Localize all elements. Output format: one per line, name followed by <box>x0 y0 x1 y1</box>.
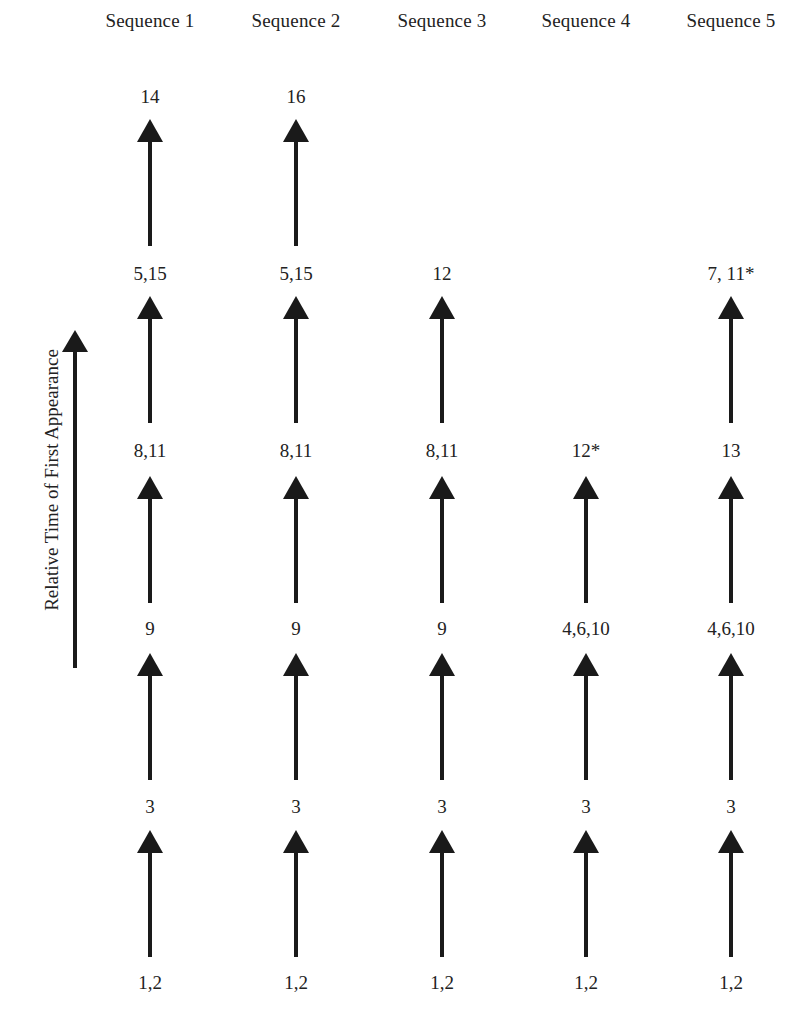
stage-label: 3 <box>726 796 736 818</box>
stage-label: 3 <box>291 796 301 818</box>
up-arrow-icon <box>427 830 457 958</box>
stage-label: 7, 11* <box>708 263 755 285</box>
up-arrow-icon <box>281 830 311 958</box>
stage-label: 4,6,10 <box>707 618 755 640</box>
stage-label: 1,2 <box>138 972 162 994</box>
stage-label: 3 <box>581 796 591 818</box>
up-arrow-icon <box>135 119 165 247</box>
up-arrow-icon <box>716 476 746 604</box>
stage-label: 5,15 <box>133 263 166 285</box>
stage-label: 8,11 <box>426 440 459 462</box>
up-arrow-icon <box>716 653 746 781</box>
up-arrow-icon <box>571 830 601 958</box>
stage-label: 8,11 <box>134 440 167 462</box>
stage-label: 1,2 <box>430 972 454 994</box>
up-arrow-icon <box>716 830 746 958</box>
up-arrow-icon <box>427 653 457 781</box>
up-arrow-icon <box>135 476 165 604</box>
stage-label: 13 <box>722 440 741 462</box>
stage-label: 4,6,10 <box>562 618 610 640</box>
column-header: Sequence 5 <box>686 10 775 32</box>
up-arrow-icon <box>135 653 165 781</box>
stage-label: 1,2 <box>574 972 598 994</box>
stage-label: 3 <box>145 796 155 818</box>
stage-label: 3 <box>437 796 447 818</box>
up-arrow-icon <box>427 476 457 604</box>
stage-label: 9 <box>437 618 447 640</box>
up-arrow-icon <box>571 653 601 781</box>
up-arrow-icon <box>135 830 165 958</box>
stage-label: 12* <box>572 440 601 462</box>
column-header: Sequence 4 <box>541 10 630 32</box>
up-arrow-icon <box>427 296 457 424</box>
column-header: Sequence 2 <box>251 10 340 32</box>
up-arrow-icon <box>281 119 311 247</box>
stage-label: 12 <box>433 263 452 285</box>
time-axis-arrow-icon <box>60 330 90 674</box>
stage-label: 1,2 <box>284 972 308 994</box>
column-header: Sequence 1 <box>105 10 194 32</box>
up-arrow-icon <box>281 653 311 781</box>
up-arrow-icon <box>281 476 311 604</box>
stage-label: 9 <box>145 618 155 640</box>
stage-label: 9 <box>291 618 301 640</box>
stage-label: 14 <box>141 86 160 108</box>
stage-label: 1,2 <box>719 972 743 994</box>
stage-label: 5,15 <box>279 263 312 285</box>
up-arrow-icon <box>135 296 165 424</box>
up-arrow-icon <box>281 296 311 424</box>
up-arrow-icon <box>716 296 746 424</box>
stage-label: 8,11 <box>280 440 313 462</box>
up-arrow-icon <box>571 476 601 604</box>
stage-label: 16 <box>287 86 306 108</box>
column-header: Sequence 3 <box>397 10 486 32</box>
